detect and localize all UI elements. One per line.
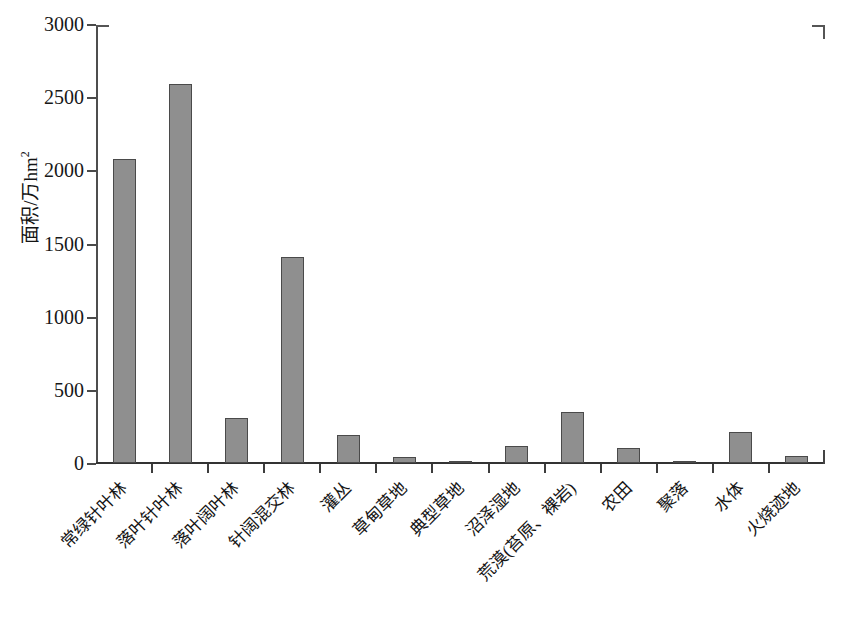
bar-chart-figure: 面积/万hm2 050010001500200025003000 常绿针叶林落叶… <box>0 0 851 621</box>
x-axis-tick-labels: 常绿针叶林落叶针叶林落叶阔叶林针阔混交林灌丛草甸草地典型草地沼泽湿地荒漠(苔原、… <box>0 0 851 621</box>
